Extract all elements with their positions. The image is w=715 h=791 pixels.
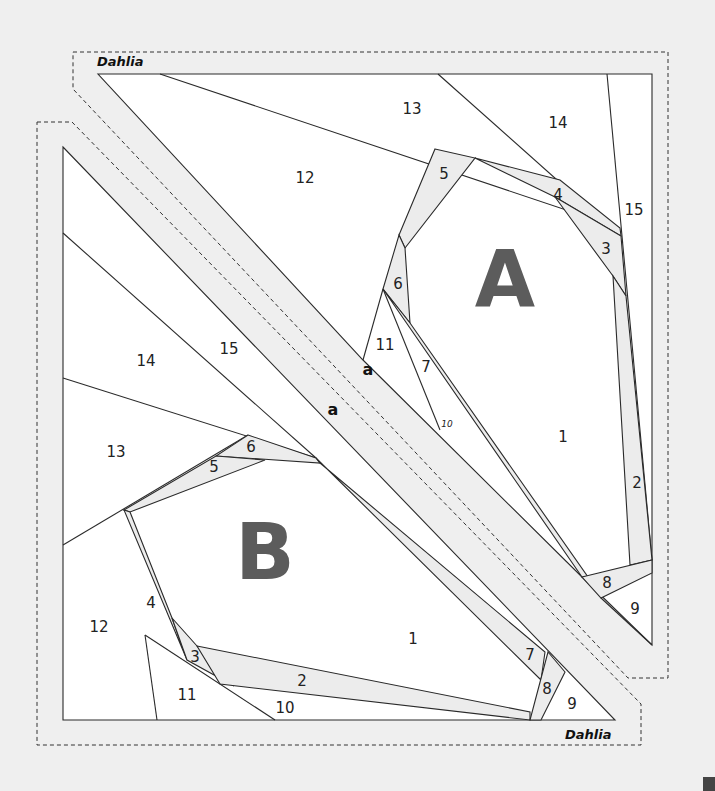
- section-a-label-5: 5: [439, 165, 449, 183]
- section-b-label-1: 1: [408, 630, 418, 648]
- section-a-label-13: 13: [402, 100, 421, 118]
- section-a-label-8: 8: [602, 574, 612, 592]
- section-b-label-8: 8: [542, 680, 552, 698]
- section-b-label-10: 10: [275, 699, 294, 717]
- section-a-label-9: 9: [630, 600, 640, 618]
- section-a-label-4: 4: [553, 186, 563, 204]
- section-a-label-14: 14: [548, 114, 567, 132]
- section-b-letter: B: [235, 507, 294, 597]
- section-a-letter: A: [475, 234, 535, 324]
- section-b-label-7: 7: [525, 646, 535, 664]
- section-a-label-3: 3: [601, 240, 611, 258]
- section-a-label-15: 15: [624, 201, 643, 219]
- section-b-label-13: 13: [106, 443, 125, 461]
- paper-piecing-pattern: Dahlia Dahlia A B a a 1 2 3 4 5 6 7 8 9 …: [0, 0, 715, 791]
- section-b-label-2: 2: [297, 672, 307, 690]
- section-a-label-12: 12: [295, 169, 314, 187]
- section-b-label-12: 12: [89, 618, 108, 636]
- section-a-title: Dahlia: [97, 54, 144, 69]
- section-b-label-3: 3: [190, 648, 200, 666]
- section-b-label-14: 14: [136, 352, 155, 370]
- section-a-label-6: 6: [393, 275, 403, 293]
- section-a-join-mark: a: [363, 360, 374, 379]
- section-b-label-9: 9: [567, 695, 577, 713]
- section-b-label-4: 4: [146, 594, 156, 612]
- section-a-label-11: 11: [375, 336, 394, 354]
- section-a-label-10: 10: [441, 419, 453, 429]
- section-b-label-6: 6: [246, 438, 256, 456]
- section-a-label-2: 2: [632, 474, 642, 492]
- section-b-join-mark: a: [328, 400, 339, 419]
- page-corner-marker: [703, 777, 715, 791]
- section-b-title: Dahlia: [565, 727, 612, 742]
- section-a-label-7: 7: [421, 358, 431, 376]
- section-a-label-1: 1: [558, 428, 568, 446]
- section-b-label-11: 11: [177, 686, 196, 704]
- section-b-label-15: 15: [219, 340, 238, 358]
- section-b-label-5: 5: [209, 458, 219, 476]
